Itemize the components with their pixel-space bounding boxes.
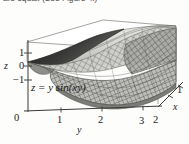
y-tick-2: 2 <box>98 114 103 125</box>
surface-plot-svg <box>0 0 189 144</box>
z-tick-minus-1: −1 <box>13 74 24 85</box>
z-tick-0: 0 <box>19 60 24 71</box>
equation-annotation: z = y sin(xy) <box>31 81 86 93</box>
figure-container: are equal. (See Figure 4.) <box>0 0 189 144</box>
x-tick-1: 1 <box>177 84 182 95</box>
y-tick-3: 3 <box>139 115 144 126</box>
y-tick-1: 1 <box>57 114 62 125</box>
y-tick-0: 0 <box>14 112 19 123</box>
x-axis-label: x <box>173 101 177 112</box>
y-axis-label: y <box>77 124 81 135</box>
z-tick-1: 1 <box>19 47 24 58</box>
z-axis-label: z <box>4 60 8 71</box>
x-tick-2: 2 <box>153 114 158 125</box>
